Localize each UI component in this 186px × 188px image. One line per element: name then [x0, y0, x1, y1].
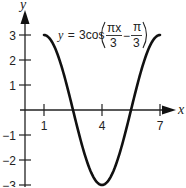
- y-tick-label: −3: [2, 179, 16, 188]
- x-ticks: 147: [41, 104, 164, 133]
- svg-text:−: −: [123, 29, 130, 43]
- y-tick-label: −1: [2, 129, 16, 143]
- y-axis-arrow-icon: [21, 10, 30, 24]
- x-tick-label: 1: [41, 119, 48, 133]
- y-axis-label: y: [18, 0, 27, 12]
- svg-text:π: π: [133, 20, 141, 34]
- y-ticks: 321−1−2−3: [2, 29, 31, 188]
- equation-label: y = 3cos πx 3 − π 3: [57, 20, 147, 50]
- eq-frac1-den: 3: [110, 36, 117, 50]
- x-axis-label: x: [177, 102, 185, 117]
- eq-frac2-den: 3: [133, 36, 140, 50]
- eq-right-paren: [143, 22, 147, 48]
- eq-coef: 3cos: [79, 28, 104, 42]
- eq-minus: −: [123, 29, 130, 43]
- eq-lhs: y: [57, 28, 64, 42]
- y-tick-label: 1: [9, 79, 16, 93]
- svg-text:πx: πx: [107, 21, 121, 35]
- y-tick-label: 2: [9, 54, 16, 68]
- svg-text:3: 3: [133, 36, 140, 50]
- eq-equals: =: [68, 28, 75, 42]
- svg-text:3: 3: [110, 36, 117, 50]
- cosine-graph: y x 321−1−2−3 147 y = 3cos πx 3 − π 3: [0, 0, 186, 187]
- eq-frac2-num: π: [133, 20, 141, 34]
- svg-text:y = 3cos: y = 3cos: [57, 28, 104, 42]
- x-axis-arrow-icon: [162, 106, 176, 115]
- eq-frac1-num: πx: [107, 21, 121, 35]
- x-tick-label: 7: [157, 119, 164, 133]
- y-tick-label: −2: [2, 154, 16, 168]
- y-tick-label: 3: [9, 29, 16, 43]
- x-tick-label: 4: [99, 119, 106, 133]
